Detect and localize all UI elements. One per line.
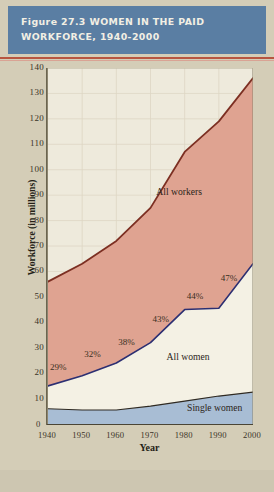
y-tick-10: 10 [2, 393, 44, 403]
y-tick-20: 20 [2, 367, 44, 377]
annotation-32pct: 32% [84, 349, 101, 359]
x-tick-1980: 1980 [167, 430, 201, 440]
y-tick-40: 40 [2, 316, 44, 326]
y-tick-90: 90 [2, 189, 44, 199]
annotation-29pct: 29% [50, 362, 67, 372]
y-tick-100: 100 [2, 164, 44, 174]
y-tick-60: 60 [2, 265, 44, 275]
page-bottom-margin [0, 470, 274, 492]
figure-header: Figure 27.3 WOMEN IN THE PAID WORKFORCE,… [8, 6, 266, 54]
series-label-single-women: Single women [187, 402, 242, 413]
x-axis-title: Year [47, 442, 252, 453]
annotation-47pct: 47% [221, 273, 238, 283]
y-axis-zero-label: 0 [36, 419, 40, 429]
y-tick-110: 110 [2, 138, 44, 148]
y-tick-80: 80 [2, 215, 44, 225]
y-tick-70: 70 [2, 240, 44, 250]
x-tick-1990: 1990 [201, 430, 235, 440]
series-label-all-women: All women [167, 351, 210, 362]
y-axis-title: Workforce (in millions) [26, 153, 37, 303]
annotation-43pct: 43% [153, 314, 170, 324]
x-tick-1970: 1970 [133, 430, 167, 440]
chart-canvas [48, 68, 253, 424]
y-axis-line [46, 68, 47, 425]
x-tick-2000: 2000 [235, 430, 269, 440]
x-tick-1950: 1950 [64, 430, 98, 440]
series-label-all-workers: All workers [156, 186, 202, 197]
annotation-38pct: 38% [118, 337, 135, 347]
x-tick-1960: 1960 [98, 430, 132, 440]
x-axis-line [47, 424, 253, 425]
figure-container: Figure 27.3 WOMEN IN THE PAID WORKFORCE,… [0, 0, 274, 492]
plot-area [47, 68, 253, 424]
y-tick-130: 130 [2, 87, 44, 97]
figure-title: Figure 27.3 WOMEN IN THE PAID WORKFORCE,… [21, 15, 255, 44]
y-tick-120: 120 [2, 113, 44, 123]
y-tick-140: 140 [2, 62, 44, 72]
x-tick-1940: 1940 [30, 430, 64, 440]
y-tick-50: 50 [2, 291, 44, 301]
annotation-44pct: 44% [187, 291, 204, 301]
y-tick-30: 30 [2, 342, 44, 352]
